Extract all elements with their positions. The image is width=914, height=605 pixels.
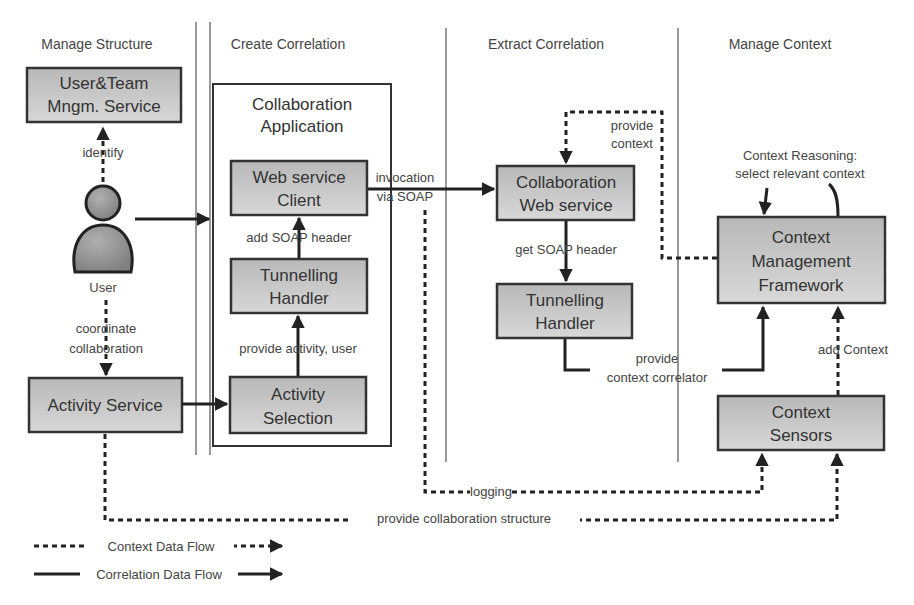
provide-correlator-label: provide <box>636 351 679 366</box>
user-team-management-service-node[interactable]: User&Team Mngm. Service <box>27 68 181 122</box>
svg-text:Tunnelling: Tunnelling <box>260 266 338 285</box>
correlator-edge-end <box>722 307 763 370</box>
provide-activity-label: provide activity, user <box>239 341 357 356</box>
invocation-label: invocation <box>376 170 435 185</box>
context-reasoning-label: select relevant context <box>735 166 865 181</box>
legend-correlation-flow-label: Correlation Data Flow <box>96 567 222 582</box>
svg-text:Mngm. Service: Mngm. Service <box>47 97 160 116</box>
svg-text:Web service: Web service <box>252 168 345 187</box>
svg-text:Handler: Handler <box>535 314 595 333</box>
provide-context-label: context <box>611 136 653 151</box>
activity-service-node[interactable]: Activity Service <box>29 378 182 432</box>
svg-text:Management: Management <box>751 252 851 271</box>
provide-correlator-label: context correlator <box>607 370 708 385</box>
provide-context-label: provide <box>611 118 654 133</box>
svg-text:Web service: Web service <box>519 196 612 215</box>
correlator-edge-start <box>565 339 590 370</box>
legend: Context Data Flow Correlation Data Flow <box>34 538 282 582</box>
svg-text:Context: Context <box>772 228 831 247</box>
lane-header-manage-structure: Manage Structure <box>41 36 152 52</box>
user-label: User <box>89 280 117 295</box>
logging-label: logging <box>470 484 512 499</box>
collaboration-web-service-node[interactable]: Collaboration Web service <box>497 166 634 220</box>
reasoning-loop-edge <box>829 184 838 216</box>
coordinate-label: coordinate <box>76 321 137 336</box>
context-sensors-node[interactable]: Context Sensors <box>718 396 884 450</box>
context-management-framework-node[interactable]: Context Management Framework <box>718 217 885 303</box>
legend-context-flow-label: Context Data Flow <box>108 539 216 554</box>
svg-text:Tunnelling: Tunnelling <box>526 291 604 310</box>
invocation-label: via SOAP <box>377 189 433 204</box>
identify-label: identify <box>82 145 124 160</box>
svg-text:Sensors: Sensors <box>770 426 832 445</box>
svg-text:Collaboration: Collaboration <box>516 173 616 192</box>
activity-selection-node[interactable]: Activity Selection <box>230 377 366 433</box>
svg-text:Client: Client <box>277 191 321 210</box>
lane-header-extract-correlation: Extract Correlation <box>488 36 604 52</box>
tunnelling-handler-server-node[interactable]: Tunnelling Handler <box>497 284 632 338</box>
reasoning-arrow-edge <box>764 188 767 214</box>
svg-text:Context: Context <box>772 403 831 422</box>
svg-text:Activity Service: Activity Service <box>47 396 162 415</box>
architecture-diagram: Manage Structure Create Correlation Extr… <box>0 0 914 605</box>
svg-text:Handler: Handler <box>269 289 329 308</box>
collaboration-application-label: Application <box>260 117 343 136</box>
svg-text:Framework: Framework <box>758 276 844 295</box>
coordinate-label: collaboration <box>69 341 143 356</box>
provide-structure-label: provide collaboration structure <box>377 511 551 526</box>
lane-header-create-correlation: Create Correlation <box>231 36 345 52</box>
svg-text:Selection: Selection <box>263 409 333 428</box>
get-soap-header-label: get SOAP header <box>515 242 617 257</box>
collaboration-application-label: Collaboration <box>252 95 352 114</box>
svg-text:Activity: Activity <box>271 385 325 404</box>
lane-header-manage-context: Manage Context <box>729 36 832 52</box>
svg-text:User&Team: User&Team <box>60 74 149 93</box>
add-context-label: add Context <box>818 342 888 357</box>
add-soap-header-label: add SOAP header <box>246 230 352 245</box>
tunnelling-handler-client-node[interactable]: Tunnelling Handler <box>231 259 367 313</box>
web-service-client-node[interactable]: Web service Client <box>231 161 367 215</box>
context-reasoning-label: Context Reasoning: <box>743 148 857 163</box>
user-icon[interactable] <box>74 186 132 272</box>
